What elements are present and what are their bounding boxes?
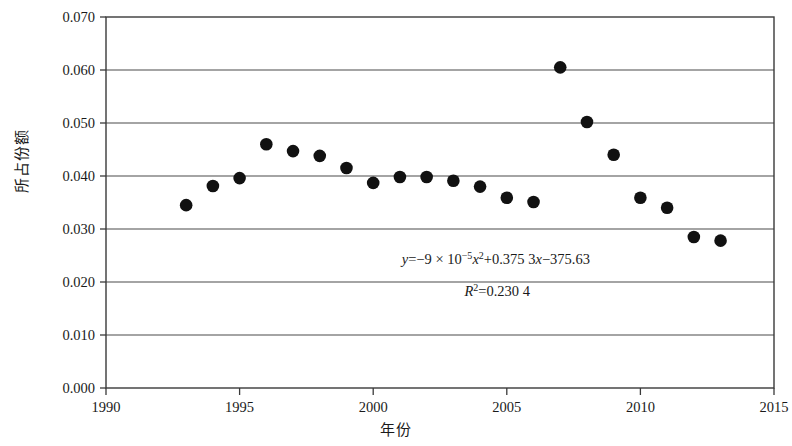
data-point — [607, 149, 620, 162]
data-point — [207, 180, 220, 193]
y-axis-ticks: 0.0000.0100.0200.0300.0400.0500.0600.070 — [62, 9, 106, 396]
data-point — [367, 177, 380, 190]
data-point — [420, 171, 433, 184]
y-tick-label: 0.060 — [62, 62, 95, 78]
data-point — [340, 162, 353, 175]
x-tick-label: 2010 — [626, 399, 655, 415]
data-point — [447, 174, 460, 187]
data-point — [180, 199, 193, 212]
y-tick-label: 0.020 — [62, 274, 95, 290]
y-tick-label: 0.000 — [62, 380, 95, 396]
x-axis-ticks: 199019952000200520102015 — [92, 388, 789, 415]
data-point — [501, 191, 514, 204]
data-point — [260, 138, 273, 151]
y-tick-label: 0.070 — [62, 9, 95, 25]
y-tick-label: 0.010 — [62, 327, 95, 343]
data-point — [474, 180, 487, 193]
x-tick-label: 1990 — [92, 399, 121, 415]
r2-label: R — [463, 283, 473, 299]
data-point — [661, 202, 674, 215]
grid-lines — [106, 70, 774, 335]
y-tick-label: 0.040 — [62, 168, 95, 184]
data-point — [313, 150, 326, 163]
x-tick-label: 1995 — [225, 399, 254, 415]
equation-rest: +0.375 3 — [484, 251, 536, 267]
data-point — [688, 231, 701, 244]
data-points — [180, 61, 727, 247]
equation-exponent-1: −5 — [462, 250, 473, 261]
y-tick-label: 0.050 — [62, 115, 95, 131]
scatter-plot: 0.0000.0100.0200.0300.0400.0500.0600.070… — [0, 0, 792, 446]
data-point — [233, 172, 246, 185]
chart-figure: 所占份额 年份 0.0000.0100.0200.0300.0400.0500.… — [0, 0, 792, 446]
data-point — [394, 171, 407, 184]
equation-operator: =−9 × 10 — [408, 251, 462, 267]
x-tick-label: 2000 — [359, 399, 388, 415]
plot-frame — [106, 17, 774, 388]
data-point — [714, 234, 727, 247]
x-tick-label: 2005 — [492, 399, 521, 415]
x-tick-label: 2015 — [760, 399, 789, 415]
y-tick-label: 0.030 — [62, 221, 95, 237]
equation-tail: −375.63 — [542, 251, 590, 267]
data-point — [634, 191, 647, 204]
svg-text:R2=0.230 4: R2=0.230 4 — [463, 282, 530, 299]
data-point — [527, 196, 540, 209]
data-point — [581, 116, 594, 129]
svg-text:y=−9 × 10−5x2+0.375 3x−375.63: y=−9 × 10−5x2+0.375 3x−375.63 — [400, 250, 590, 267]
equation-annotation: y=−9 × 10−5x2+0.375 3x−375.63 R2=0.230 4 — [400, 250, 590, 299]
data-point — [554, 61, 567, 74]
data-point — [287, 145, 300, 158]
r2-value: =0.230 4 — [478, 283, 530, 299]
